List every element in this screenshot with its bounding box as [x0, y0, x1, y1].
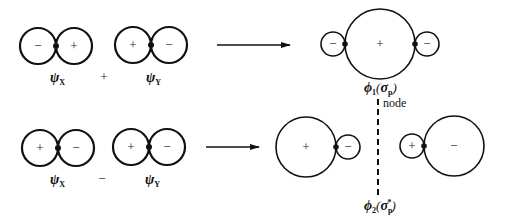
- phi1-sigma-p-label: ϕ1(σp): [364, 80, 397, 97]
- nucleus-dot: [412, 41, 418, 47]
- nucleus-dot: [146, 144, 152, 150]
- nucleus-dot: [53, 43, 59, 49]
- sign-label: −: [423, 36, 430, 52]
- nucleus-dot: [148, 42, 154, 48]
- sign-label: −: [344, 139, 351, 155]
- sign-label: −: [34, 38, 41, 54]
- sign-label: +: [129, 37, 136, 53]
- sign-label: +: [302, 139, 309, 155]
- nucleus-dot: [421, 143, 427, 149]
- sign-label: −: [450, 138, 457, 154]
- sign-label: −: [72, 140, 79, 156]
- sign-label: +: [408, 138, 415, 154]
- sign-label: +: [36, 140, 43, 156]
- nucleus-dot: [333, 144, 339, 150]
- psi-y-label: ψY: [145, 170, 160, 189]
- sign-label: −: [163, 139, 170, 155]
- node-label: node: [383, 96, 406, 111]
- sign-label: +: [70, 38, 77, 54]
- nucleus-dot: [55, 145, 61, 151]
- psi-x-label: ψX: [50, 170, 65, 189]
- plus-operator: +: [100, 69, 107, 85]
- sign-label: −: [165, 37, 172, 53]
- psi-x-label: ψX: [50, 68, 65, 87]
- sign-label: −: [329, 36, 336, 52]
- phi2-sigma-p-star-label: ϕ2(σp*): [364, 198, 396, 215]
- sign-label: +: [376, 36, 383, 52]
- minus-operator: −: [98, 171, 105, 187]
- psi-y-label: ψY: [146, 68, 161, 87]
- nucleus-dot: [342, 41, 348, 47]
- diagram-canvas: [0, 0, 512, 218]
- sign-label: +: [127, 139, 134, 155]
